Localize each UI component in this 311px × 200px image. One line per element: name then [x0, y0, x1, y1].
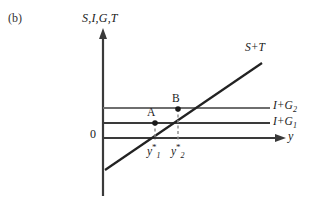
point-a-label: A: [147, 107, 155, 119]
x-axis-arrowhead: [275, 134, 286, 142]
y-axis-arrowhead: [99, 28, 107, 39]
figure-panel-b: (b) S,I,G,T y 0 S+T I+G2 I+G1 A B y*1 y*…: [0, 0, 311, 200]
x-tick-label-y2-subscript: 2: [181, 151, 185, 160]
line-label-i-plus-g2-text: I+G: [273, 99, 293, 111]
panel-tag: (b): [8, 12, 22, 24]
x-tick-label-y2: y*2: [171, 143, 185, 160]
origin-label: 0: [90, 128, 96, 140]
x-tick-label-y1: y*1: [147, 143, 161, 160]
line-label-i-plus-g1: I+G1: [273, 116, 297, 130]
point-a-marker: [152, 120, 158, 126]
x-tick-label-y1-subscript: 1: [157, 151, 161, 160]
curve-label-s-plus-t: S+T: [245, 42, 265, 54]
line-label-i-plus-g2: I+G2: [273, 100, 297, 114]
line-label-i-plus-g2-subscript: 2: [293, 105, 297, 114]
line-label-i-plus-g1-text: I+G: [273, 115, 293, 127]
graph-canvas: [0, 0, 311, 200]
point-b-marker: [175, 106, 181, 112]
point-b-label: B: [172, 93, 180, 105]
x-axis-label: y: [288, 130, 293, 142]
line-label-i-plus-g1-subscript: 1: [293, 121, 297, 130]
y-axis-label: S,I,G,T: [82, 12, 118, 24]
